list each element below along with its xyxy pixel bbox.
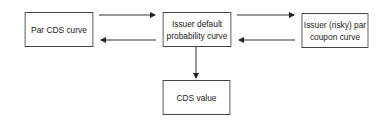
node-issuer-risky-par-coupon-curve: Issuer (risky) par coupon curve (302, 13, 369, 48)
node-label: CDS value (177, 92, 217, 104)
node-label: Par CDS curve (31, 24, 87, 36)
node-label: Issuer (risky) par coupon curve (302, 19, 367, 43)
node-issuer-default-probability-curve: Issuer default probability curve (163, 12, 232, 47)
node-label: Issuer default probability curve (164, 18, 231, 42)
node-cds-value: CDS value (163, 80, 231, 115)
node-par-cds-curve: Par CDS curve (25, 12, 94, 47)
